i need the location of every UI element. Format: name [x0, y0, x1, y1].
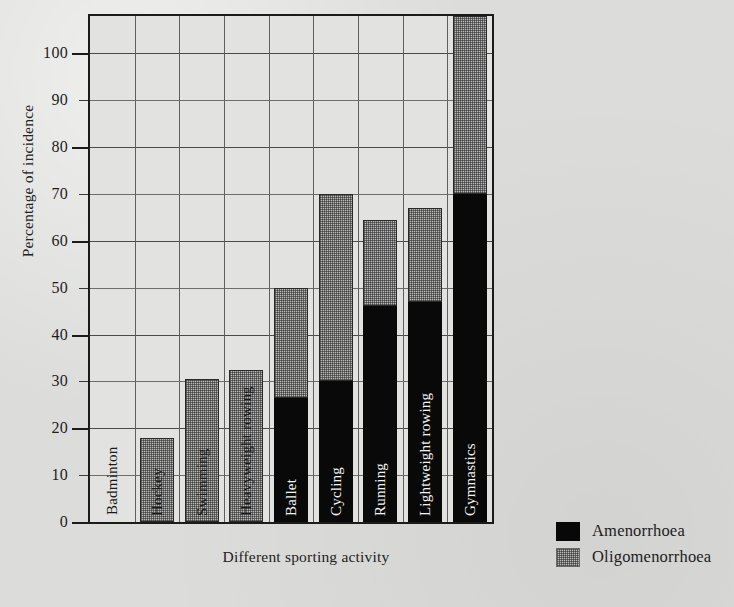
y-tick-40 — [72, 335, 88, 337]
y-tick-label-60: 60 — [28, 232, 68, 250]
gridline-x-2 — [179, 16, 180, 522]
bar-segment-amenorrhoea — [274, 398, 308, 522]
bar-lightweight-rowing[interactable]: Lightweight rowing — [408, 208, 442, 522]
y-tick-label-10: 10 — [28, 466, 68, 484]
y-tick-label-70: 70 — [28, 185, 68, 203]
bar-segment-oligomenorrhoea — [274, 288, 308, 398]
y-tick-70 — [79, 194, 88, 195]
gridline-x-3 — [224, 16, 225, 522]
bar-segment-oligomenorrhoea — [363, 220, 397, 307]
bar-ballet[interactable]: Ballet — [274, 288, 308, 522]
y-tick-label-80: 80 — [28, 138, 68, 156]
gridline-y-100 — [90, 53, 492, 54]
legend-label-oligomenorrhoea: Oligomenorrhoea — [592, 547, 711, 567]
y-tick-10 — [79, 475, 88, 476]
bar-heavyweight-rowing[interactable]: Heavyweight rowing — [229, 370, 263, 522]
y-tick-30 — [79, 381, 88, 382]
y-tick-label-30: 30 — [28, 372, 68, 390]
y-tick-20 — [72, 428, 88, 430]
bar-hockey[interactable]: Hockey — [140, 438, 174, 522]
bar-gymnastics[interactable]: Gymnastics — [453, 16, 487, 522]
bar-cycling[interactable]: Cycling — [319, 194, 353, 522]
bar-segment-amenorrhoea — [408, 302, 442, 522]
bar-label-badminton: Badminton — [105, 447, 120, 515]
bar-segment-amenorrhoea — [319, 381, 353, 522]
y-tick-50 — [79, 288, 88, 289]
gridline-x-8 — [447, 16, 448, 522]
y-tick-label-20: 20 — [28, 419, 68, 437]
bar-segment-oligomenorrhoea — [408, 208, 442, 302]
y-tick-label-50: 50 — [28, 279, 68, 297]
bar-segment-amenorrhoea — [453, 194, 487, 522]
legend-item-amenorrhoea: Amenorrhoea — [556, 518, 731, 544]
y-tick-80 — [72, 147, 88, 149]
bar-segment-oligomenorrhoea — [229, 370, 263, 522]
gridline-y-70 — [90, 194, 492, 195]
gridline-x-6 — [358, 16, 359, 522]
y-tick-label-100: 100 — [28, 44, 68, 62]
y-tick-label-0: 0 — [28, 513, 68, 531]
legend-swatch-amenorrhoea — [556, 522, 580, 541]
bar-running[interactable]: Running — [363, 220, 397, 522]
legend-label-amenorrhoea: Amenorrhoea — [592, 521, 685, 541]
y-tick-label-90: 90 — [28, 91, 68, 109]
y-tick-0 — [72, 522, 88, 524]
gridline-y-90 — [90, 100, 492, 101]
bar-swimming[interactable]: Swimming — [185, 379, 219, 522]
plot-area: BadmintonHockeySwimmingHeavyweight rowin… — [88, 14, 494, 524]
gridline-x-7 — [403, 16, 404, 522]
gridline-x-4 — [269, 16, 270, 522]
gridline-x-5 — [313, 16, 314, 522]
y-tick-90 — [79, 100, 88, 101]
gridline-x-1 — [135, 16, 136, 522]
bar-chart-figure: Percentage of incidence Different sporti… — [0, 0, 734, 607]
gridline-y-80 — [90, 147, 492, 148]
bar-badminton[interactable]: Badminton — [95, 16, 129, 522]
legend-swatch-oligomenorrhoea — [556, 548, 580, 567]
figure-page: Percentage of incidence Different sporti… — [0, 0, 734, 607]
chart-legend: Amenorrhoea Oligomenorrhoea — [556, 518, 731, 570]
y-tick-100 — [72, 53, 88, 55]
bar-segment-oligomenorrhoea — [140, 438, 174, 522]
x-axis-title: Different sporting activity — [96, 548, 516, 566]
bar-segment-oligomenorrhoea — [185, 379, 219, 522]
bar-segment-oligomenorrhoea — [319, 194, 353, 381]
y-tick-label-40: 40 — [28, 326, 68, 344]
y-axis: 0102030405060708090100 — [40, 14, 88, 524]
bar-segment-amenorrhoea — [363, 306, 397, 522]
bar-segment-oligomenorrhoea — [453, 16, 487, 194]
legend-item-oligomenorrhoea: Oligomenorrhoea — [556, 544, 731, 570]
y-tick-60 — [72, 241, 88, 243]
